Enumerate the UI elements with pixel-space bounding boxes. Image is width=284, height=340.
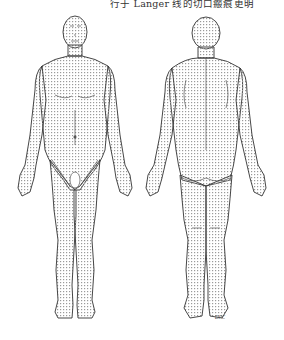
back-body-figure bbox=[134, 0, 284, 340]
front-body-figure bbox=[0, 0, 150, 340]
artist-signature: DPC bbox=[215, 314, 225, 320]
